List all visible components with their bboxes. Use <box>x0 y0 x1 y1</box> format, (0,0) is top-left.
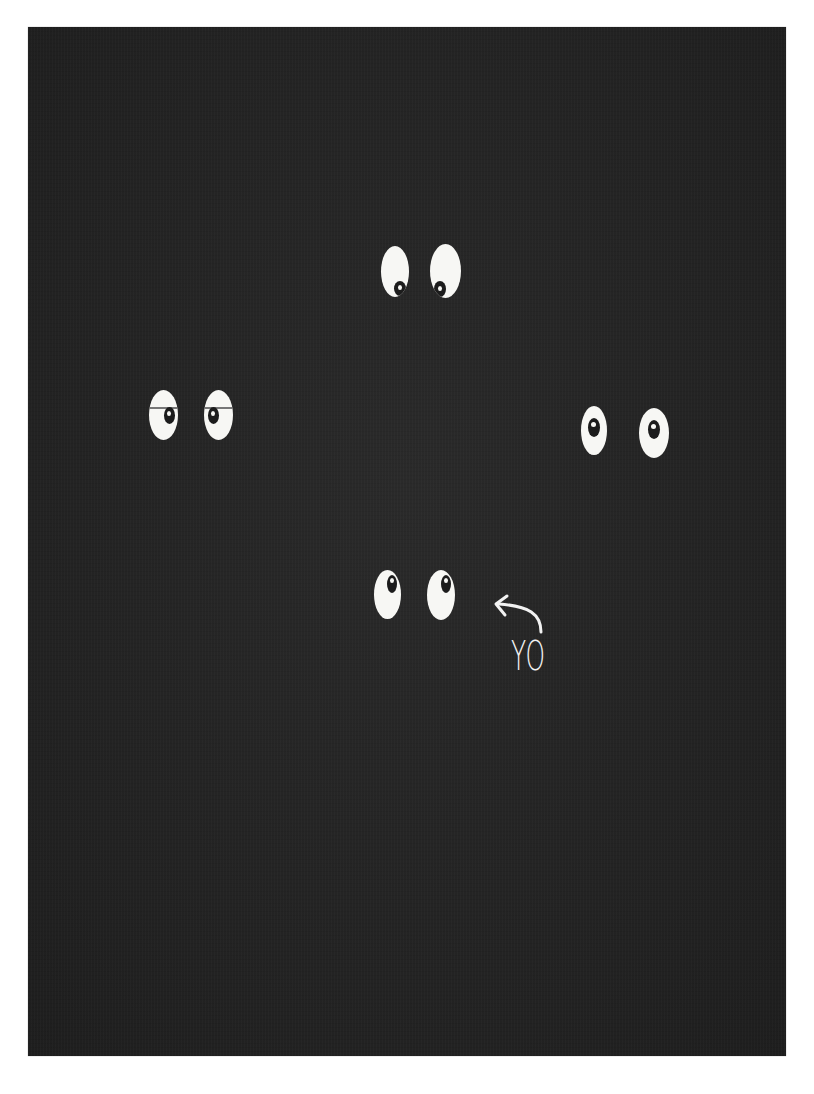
pupil <box>441 575 451 593</box>
pupil <box>208 407 219 424</box>
eye-icon <box>374 570 401 619</box>
eye-icon <box>430 244 461 298</box>
pupil <box>387 575 397 593</box>
eye-icon <box>381 246 409 297</box>
pupil <box>648 420 660 439</box>
pupil <box>394 281 406 296</box>
pupil <box>434 281 446 297</box>
eye-icon <box>427 570 455 620</box>
page: YO <box>0 0 814 1094</box>
pupil <box>164 407 175 424</box>
pupil <box>588 418 600 437</box>
eye-icon <box>581 406 607 455</box>
dark-card-background <box>28 27 786 1056</box>
yo-label: YO <box>511 636 546 676</box>
eye-icon <box>149 390 178 440</box>
eye-icon <box>204 390 233 440</box>
eyelid-line <box>149 407 178 409</box>
eyelid-line <box>204 407 233 409</box>
eye-icon <box>639 408 669 458</box>
